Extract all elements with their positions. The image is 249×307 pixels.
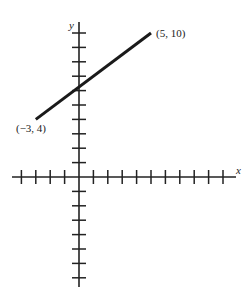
line-segment [36,33,151,119]
start-point-label: (−3, 4) [16,122,46,135]
x-axis-label: x [235,164,241,176]
y-axis-label: y [68,19,74,31]
coordinate-plane: x y (−3, 4) (5, 10) [0,0,249,307]
end-point-label: (5, 10) [156,27,186,40]
axis-ticks [21,33,223,278]
